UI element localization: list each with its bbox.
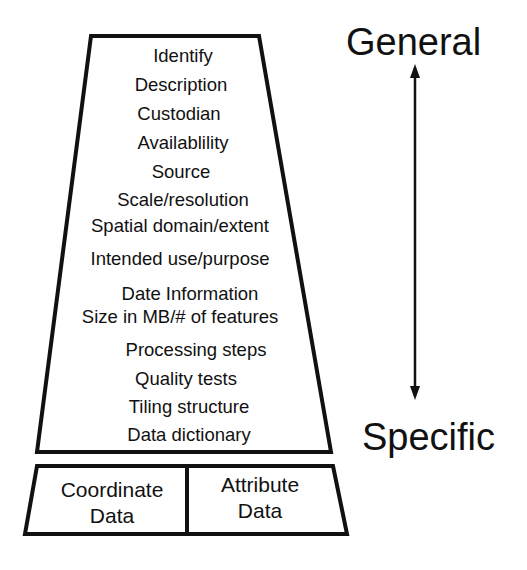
- specific-label: Specific: [362, 417, 495, 457]
- item-scale-resolution: Scale/resolution: [0, 190, 368, 210]
- upper-trapezoid: [37, 36, 331, 452]
- general-label: General: [346, 22, 481, 62]
- attribute-data-line2: Data: [187, 498, 333, 524]
- item-data-dictionary: Data dictionary: [4, 425, 374, 445]
- item-identify: Identify: [0, 46, 368, 66]
- item-source: Source: [0, 162, 366, 182]
- attribute-data-line1: Attribute: [187, 472, 333, 498]
- item-date-information: Date Information: [5, 284, 375, 304]
- coordinate-data-line1: Coordinate: [37, 477, 187, 503]
- coordinate-data-line2: Data: [37, 503, 187, 529]
- item-quality-tests: Quality tests: [1, 369, 371, 389]
- item-processing-steps: Processing steps: [11, 340, 381, 360]
- item-intended-use: Intended use/purpose: [0, 249, 365, 269]
- arrow-up-head-icon: [410, 64, 420, 78]
- item-spatial-domain: Spatial domain/extent: [0, 216, 365, 236]
- attribute-data-cell: Attribute Data: [187, 472, 333, 524]
- item-description: Description: [0, 75, 366, 95]
- item-availability: Availablility: [0, 133, 368, 153]
- coordinate-data-cell: Coordinate Data: [37, 477, 187, 529]
- item-custodian: Custodian: [0, 104, 364, 124]
- item-tiling-structure: Tiling structure: [4, 397, 374, 417]
- arrow-down-head-icon: [410, 386, 420, 400]
- item-size: Size in MB/# of features: [0, 307, 365, 327]
